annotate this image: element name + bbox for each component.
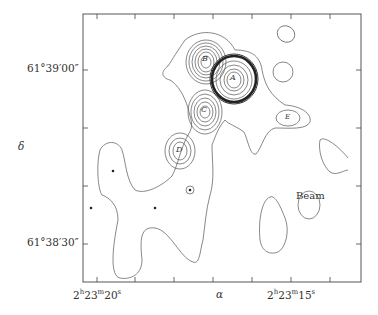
y-ticks (83, 70, 361, 244)
source-label-B: B (202, 54, 208, 63)
source-label-C: C (201, 105, 207, 114)
y-tick-label-top: 61°39′00″ (27, 62, 79, 74)
x-tick-label-right: 2h23m15s (267, 288, 315, 301)
isolated-contour (273, 62, 293, 82)
outer-contour (98, 33, 310, 279)
y-axis-label: δ (18, 140, 24, 152)
x-axis-label: α (216, 288, 223, 300)
beam-label: Beam (296, 190, 325, 201)
source-label-A: A (230, 73, 236, 82)
source-label-E: E (285, 113, 290, 121)
edge-contour (319, 139, 348, 174)
x-ticks (97, 14, 330, 282)
contour-map (0, 0, 378, 315)
source-label-D: D (176, 145, 182, 154)
point-markers (90, 170, 194, 210)
isolated-contour (274, 23, 298, 46)
y-tick-label-bottom: 61°38′30″ (27, 236, 79, 248)
bottom-right-contour (259, 197, 287, 253)
x-tick-label-left: 2h23m20s (73, 288, 121, 301)
